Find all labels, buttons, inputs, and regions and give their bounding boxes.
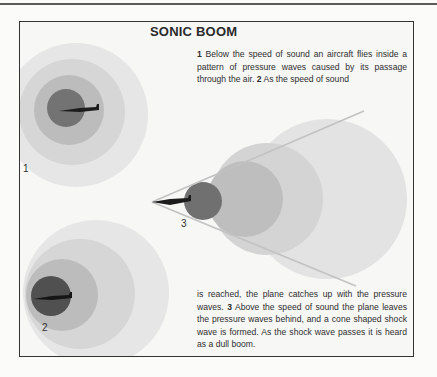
figure-1-subsonic bbox=[20, 43, 148, 187]
figure-label-3: 3 bbox=[181, 218, 187, 229]
caption-text: As the speed of sound bbox=[262, 74, 349, 84]
page-title: SONIC BOOM bbox=[150, 24, 310, 39]
figure-label-2: 2 bbox=[42, 322, 48, 333]
figure-3-supersonic bbox=[152, 111, 407, 286]
top-rule bbox=[0, 3, 437, 5]
caption-top: 1 Below the speed of sound an aircraft f… bbox=[197, 48, 407, 86]
pressure-wave-ring-1 bbox=[47, 89, 85, 127]
illustration-frame: SONIC BOOM 1 Below the speed of sound an… bbox=[19, 21, 414, 357]
figure-label-1: 1 bbox=[23, 163, 29, 174]
figure-2-sonic bbox=[23, 220, 169, 357]
caption-bottom: is reached, the plane catches up with th… bbox=[197, 288, 407, 351]
